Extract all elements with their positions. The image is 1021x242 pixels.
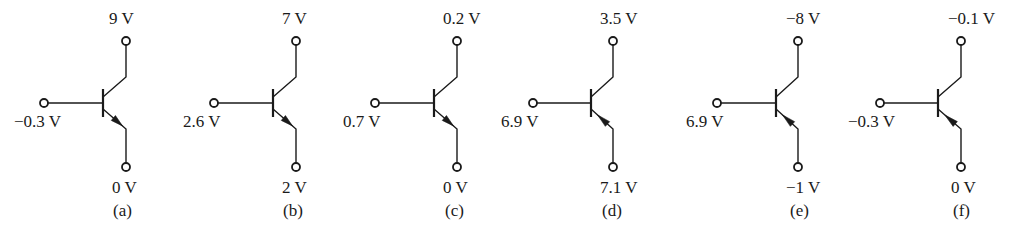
collector-lead: [273, 45, 296, 97]
emitter-voltage-label: 2 V: [282, 179, 307, 196]
collector-voltage-label: 3.5 V: [600, 10, 637, 27]
collector-voltage-label: −8 V: [786, 10, 820, 27]
circuit-caption: (b): [283, 202, 303, 219]
circuit-caption: (d): [602, 202, 622, 219]
emitter-voltage-label: 7.1 V: [600, 179, 637, 196]
collector-lead: [776, 45, 798, 97]
collector-terminal-icon: [453, 37, 461, 45]
base-voltage-label: −0.3 V: [848, 113, 895, 130]
base-voltage-label: −0.3 V: [14, 113, 61, 130]
emitter-terminal-icon: [794, 163, 802, 171]
collector-voltage-label: 0.2 V: [443, 10, 480, 27]
base-terminal-icon: [371, 99, 379, 107]
base-voltage-label: 2.6 V: [183, 113, 220, 130]
emitter-terminal-icon: [122, 163, 130, 171]
collector-voltage-label: 9 V: [109, 10, 134, 27]
collector-lead: [434, 45, 457, 97]
transistor-figure: 9 V −0.3 V 0 V (a) 7 V 2.6 V 2 V (b) 0.2…: [0, 0, 1021, 242]
base-voltage-label: 6.9 V: [686, 113, 723, 130]
base-voltage-label: 6.9 V: [501, 113, 538, 130]
emitter-terminal-icon: [453, 163, 461, 171]
emitter-terminal-icon: [957, 163, 965, 171]
collector-terminal-icon: [957, 37, 965, 45]
collector-terminal-icon: [292, 37, 300, 45]
emitter-voltage-label: 0 V: [443, 179, 468, 196]
circuit-caption: (a): [113, 202, 132, 219]
base-terminal-icon: [713, 99, 721, 107]
collector-lead: [591, 45, 613, 97]
collector-voltage-label: 7 V: [282, 10, 307, 27]
collector-terminal-icon: [122, 37, 130, 45]
emitter-terminal-icon: [609, 163, 617, 171]
emitter-voltage-label: 0 V: [112, 179, 137, 196]
collector-lead: [938, 45, 961, 97]
collector-lead: [103, 45, 126, 97]
circuit-caption: (f): [953, 202, 970, 219]
base-terminal-icon: [40, 99, 48, 107]
emitter-voltage-label: −1 V: [786, 179, 820, 196]
base-voltage-label: 0.7 V: [343, 113, 380, 130]
circuit-caption: (e): [790, 202, 809, 219]
base-terminal-icon: [876, 99, 884, 107]
collector-voltage-label: −0.1 V: [948, 10, 995, 27]
base-terminal-icon: [529, 99, 537, 107]
circuit-caption: (c): [445, 202, 464, 219]
collector-terminal-icon: [609, 37, 617, 45]
collector-terminal-icon: [794, 37, 802, 45]
emitter-terminal-icon: [292, 163, 300, 171]
emitter-voltage-label: 0 V: [951, 179, 976, 196]
base-terminal-icon: [210, 99, 218, 107]
